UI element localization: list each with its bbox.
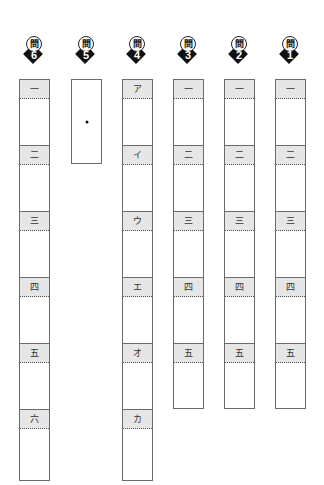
answer-cell[interactable]: オ <box>123 343 152 409</box>
answer-cell[interactable]: 四 <box>276 277 305 343</box>
question-1-badge: 問 1 <box>278 36 302 64</box>
answer-cell[interactable]: ア <box>123 80 152 145</box>
question-2-badge: 問 2 <box>227 36 251 64</box>
answer-box: 一 二 三 四 五 <box>275 79 306 409</box>
answer-box: 一 二 三 四 五 <box>224 79 255 409</box>
question-5-badge: 問 5 <box>74 36 98 64</box>
answer-cell[interactable]: 四 <box>225 277 254 343</box>
answer-box: ア イ ウ エ オ カ <box>122 79 153 481</box>
answer-cell[interactable]: 三 <box>174 211 203 277</box>
answer-cell[interactable]: 五 <box>20 343 49 409</box>
answer-cell[interactable]: 五 <box>174 343 203 408</box>
answer-box: 一 二 三 四 五 六 <box>19 79 50 481</box>
answer-cell[interactable]: カ <box>123 409 152 485</box>
question-4-badge: 問 4 <box>125 36 149 64</box>
answer-cell[interactable]: 二 <box>225 145 254 211</box>
answer-cell[interactable]: ウ <box>123 211 152 277</box>
answer-cell[interactable]: 五 <box>225 343 254 408</box>
answer-cell[interactable]: 三 <box>276 211 305 277</box>
dot-mark <box>85 120 88 123</box>
answer-cell[interactable]: 四 <box>20 277 49 343</box>
answer-cell[interactable]: 一 <box>225 80 254 145</box>
answer-cell[interactable]: 一 <box>276 80 305 145</box>
answer-cell[interactable]: 二 <box>20 145 49 211</box>
answer-cell[interactable]: 二 <box>276 145 305 211</box>
answer-box: 一 二 三 四 五 <box>173 79 204 409</box>
answer-cell[interactable]: イ <box>123 145 152 211</box>
answer-cell[interactable]: 一 <box>20 80 49 145</box>
answer-cell[interactable]: 三 <box>20 211 49 277</box>
question-6-badge: 問 6 <box>22 36 46 64</box>
answer-cell[interactable]: 六 <box>20 409 49 485</box>
answer-box[interactable] <box>71 79 102 164</box>
answer-cell[interactable]: 一 <box>174 80 203 145</box>
answer-cell[interactable]: 二 <box>174 145 203 211</box>
question-3-badge: 問 3 <box>176 36 200 64</box>
answer-cell[interactable]: 四 <box>174 277 203 343</box>
answer-cell[interactable]: 三 <box>225 211 254 277</box>
answer-cell[interactable]: エ <box>123 277 152 343</box>
answer-cell[interactable]: 五 <box>276 343 305 408</box>
